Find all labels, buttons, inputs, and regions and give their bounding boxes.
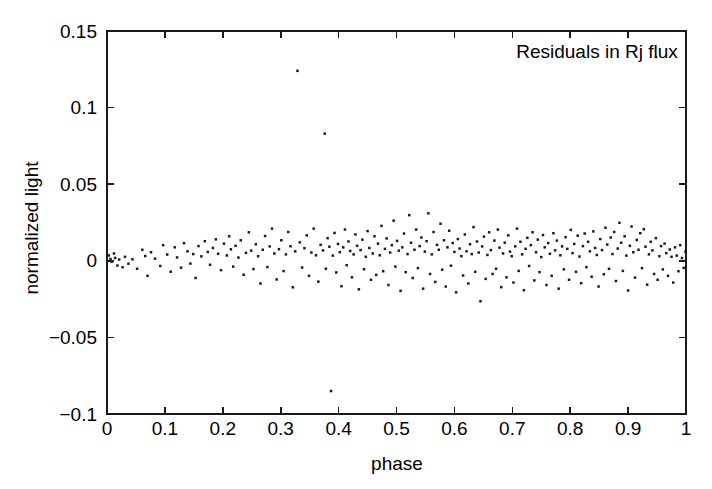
data-point — [413, 249, 416, 252]
data-point — [679, 244, 682, 247]
data-point — [636, 239, 639, 242]
data-point — [609, 236, 612, 239]
data-point — [613, 231, 616, 234]
data-point — [538, 271, 541, 274]
data-point — [585, 266, 588, 269]
data-point — [365, 256, 368, 259]
data-point — [154, 257, 157, 260]
data-point — [351, 276, 354, 279]
data-point — [359, 249, 362, 252]
data-point — [451, 242, 454, 245]
data-point — [339, 251, 342, 254]
data-point — [453, 251, 456, 254]
y-tick-label: 0.1 — [71, 97, 97, 118]
data-point — [667, 275, 670, 278]
data-point — [273, 252, 276, 255]
data-point — [141, 249, 144, 252]
figure-container: 00.10.20.30.40.50.60.70.80.91−0.1−0.0500… — [0, 0, 712, 489]
data-point — [655, 237, 658, 240]
data-point — [444, 285, 447, 288]
data-point — [259, 282, 262, 285]
data-point — [432, 231, 435, 234]
x-tick-label: 0.6 — [441, 418, 467, 439]
data-point — [420, 236, 423, 239]
data-point — [312, 227, 315, 230]
data-point — [590, 275, 593, 278]
x-tick-label: 0.8 — [557, 418, 583, 439]
data-point — [310, 251, 313, 254]
data-point — [245, 252, 248, 255]
data-point — [556, 239, 559, 242]
data-point — [223, 242, 226, 245]
data-point — [389, 251, 392, 254]
data-point — [669, 248, 672, 251]
data-point — [603, 273, 606, 276]
data-point — [382, 270, 385, 273]
data-point — [583, 232, 586, 235]
data-point — [675, 254, 678, 257]
data-point — [559, 254, 562, 257]
data-point — [252, 268, 255, 271]
data-point — [568, 279, 571, 282]
x-tick-label: 0.4 — [325, 418, 352, 439]
data-point — [385, 237, 388, 240]
data-point — [257, 255, 260, 258]
data-point — [604, 226, 607, 229]
data-point — [450, 264, 453, 267]
data-point — [380, 225, 383, 228]
data-point — [127, 262, 130, 265]
data-point — [443, 239, 446, 242]
data-point — [255, 243, 257, 246]
data-point — [622, 270, 625, 273]
data-point — [237, 256, 240, 259]
data-point — [681, 257, 684, 260]
data-point — [632, 251, 635, 254]
x-tick-label: 0.3 — [267, 418, 293, 439]
data-point — [582, 245, 585, 248]
data-point — [356, 245, 359, 248]
x-tick-label: 0.1 — [152, 418, 178, 439]
data-point — [627, 289, 630, 292]
data-point — [377, 242, 380, 245]
data-point — [326, 237, 329, 240]
y-tick-label: 0.15 — [60, 21, 97, 42]
data-point — [333, 232, 336, 235]
data-point — [438, 249, 441, 252]
data-point — [228, 235, 231, 238]
data-point — [608, 268, 611, 271]
data-point — [294, 250, 297, 253]
data-point — [648, 253, 651, 256]
data-point — [226, 254, 229, 257]
data-point — [639, 232, 642, 235]
data-point — [611, 253, 614, 256]
data-point — [107, 254, 110, 257]
data-point — [677, 270, 680, 273]
data-point — [429, 273, 432, 276]
data-point — [323, 132, 326, 135]
data-point — [502, 252, 505, 255]
data-point — [204, 240, 207, 243]
data-point — [411, 277, 414, 280]
data-point — [378, 254, 381, 257]
data-point — [587, 241, 590, 244]
data-point — [493, 239, 496, 242]
data-point — [368, 247, 371, 250]
y-tick-label: −0.05 — [49, 327, 97, 348]
data-point — [372, 252, 375, 255]
data-point — [422, 287, 425, 290]
data-point — [394, 265, 397, 268]
data-point — [146, 275, 149, 278]
data-point — [533, 279, 536, 282]
data-point — [278, 248, 281, 251]
data-point — [552, 232, 555, 235]
data-point — [232, 265, 235, 268]
data-point — [366, 230, 369, 233]
data-point — [401, 246, 404, 249]
data-point — [547, 242, 550, 245]
data-point — [268, 245, 271, 248]
data-point — [653, 273, 656, 276]
data-point — [549, 253, 552, 256]
data-point — [554, 249, 557, 252]
data-point — [479, 300, 482, 303]
data-point — [424, 250, 427, 253]
